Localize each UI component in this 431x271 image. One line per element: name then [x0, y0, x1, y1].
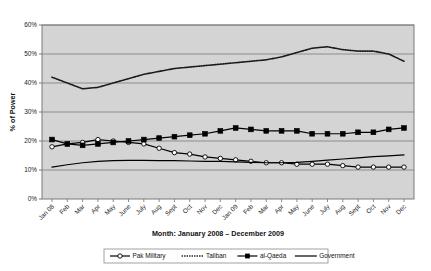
legend-marker-filled-square	[245, 254, 250, 259]
data-point-marker	[340, 131, 345, 136]
data-point-marker	[310, 162, 314, 166]
data-point-marker	[50, 145, 54, 149]
data-point-marker	[402, 165, 406, 169]
data-point-marker	[371, 130, 376, 135]
data-point-marker	[188, 152, 192, 156]
data-point-marker	[325, 162, 329, 166]
x-axis-title: Month: January 2008 – December 2009	[152, 229, 284, 238]
data-point-marker	[203, 155, 207, 159]
legend-marker-open-circle	[118, 254, 122, 258]
legend-label: al-Qaeda	[260, 252, 287, 260]
data-point-marker	[157, 146, 161, 150]
data-point-marker	[111, 140, 116, 145]
data-point-marker	[279, 128, 284, 133]
data-point-marker	[157, 136, 162, 141]
data-point-marker	[50, 137, 55, 142]
data-point-marker	[233, 126, 238, 131]
data-point-marker	[310, 131, 315, 136]
chart-container: 0%10%20%30%40%50%60% Jan 08FebMarAprMayJ…	[0, 0, 431, 271]
y-tick-label: 10%	[24, 166, 37, 173]
data-point-marker	[80, 143, 85, 148]
data-point-marker	[172, 150, 176, 154]
data-point-marker	[386, 127, 391, 132]
data-point-marker	[65, 142, 70, 147]
data-point-marker	[126, 139, 131, 144]
y-tick-label: 0%	[28, 195, 38, 202]
data-point-marker	[341, 163, 345, 167]
legend-label: Government	[319, 252, 354, 259]
data-point-marker	[172, 134, 177, 139]
data-point-marker	[187, 133, 192, 138]
y-tick-label: 50%	[24, 50, 37, 57]
legend-label: Taliban	[206, 252, 227, 259]
y-tick-label: 20%	[24, 137, 37, 144]
data-point-marker	[218, 156, 222, 160]
data-point-marker	[294, 128, 299, 133]
y-tick-label: 30%	[24, 108, 37, 115]
data-point-marker	[356, 165, 360, 169]
data-point-marker	[356, 130, 361, 135]
data-point-marker	[141, 137, 146, 142]
y-axis-title: % of Power	[8, 92, 17, 131]
data-point-marker	[386, 165, 390, 169]
y-tick-label: 60%	[24, 21, 37, 28]
data-point-marker	[218, 128, 223, 133]
data-point-marker	[264, 128, 269, 133]
data-point-marker	[96, 142, 101, 147]
y-tick-label: 40%	[24, 79, 37, 86]
legend-label: Pak Military	[133, 252, 167, 260]
data-point-marker	[249, 127, 254, 132]
data-point-marker	[325, 131, 330, 136]
line-chart: 0%10%20%30%40%50%60% Jan 08FebMarAprMayJ…	[0, 0, 431, 271]
data-point-marker	[402, 126, 407, 131]
data-point-marker	[371, 165, 375, 169]
data-point-marker	[203, 131, 208, 136]
data-point-marker	[142, 142, 146, 146]
data-point-marker	[96, 137, 100, 141]
